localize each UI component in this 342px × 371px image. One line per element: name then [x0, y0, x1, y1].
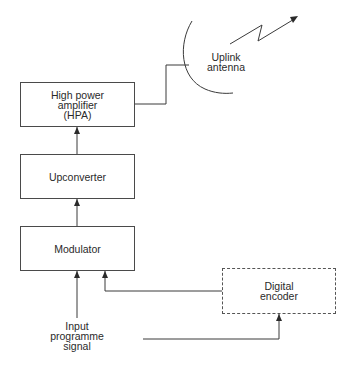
upconverter-label: Upconverter: [49, 172, 106, 182]
digital-encoder-block: Digital encoder: [222, 268, 336, 314]
hpa-label-line3: (HPA): [51, 110, 104, 120]
arrowhead-icon: [290, 16, 298, 23]
arrow-input-to-encoder: [143, 314, 279, 339]
arrowhead-icon: [74, 127, 80, 134]
arrowhead-icon: [102, 271, 108, 278]
upconverter-block: Upconverter: [20, 154, 135, 199]
hpa-label-line2: amplifier: [51, 100, 104, 110]
antenna-label-line2: antenna: [196, 62, 256, 72]
arrow-encoder-to-modulator: [105, 271, 222, 291]
transmission-zigzag-icon: [230, 18, 296, 44]
input-label-line3: signal: [42, 341, 112, 351]
encoder-label-line2: encoder: [260, 291, 298, 301]
arrowhead-icon: [276, 314, 282, 321]
hpa-label-line1: High power: [51, 90, 104, 100]
modulator-label: Modulator: [54, 244, 101, 254]
arrowhead-icon: [74, 199, 80, 206]
uplink-antenna-label: Uplink antenna: [196, 52, 256, 72]
arrowhead-icon: [74, 271, 80, 278]
input-signal-label: Input programme signal: [42, 321, 112, 351]
modulator-block: Modulator: [20, 226, 135, 271]
hpa-block: High power amplifier (HPA): [20, 82, 135, 127]
feed-hpa-to-antenna: [134, 65, 189, 104]
